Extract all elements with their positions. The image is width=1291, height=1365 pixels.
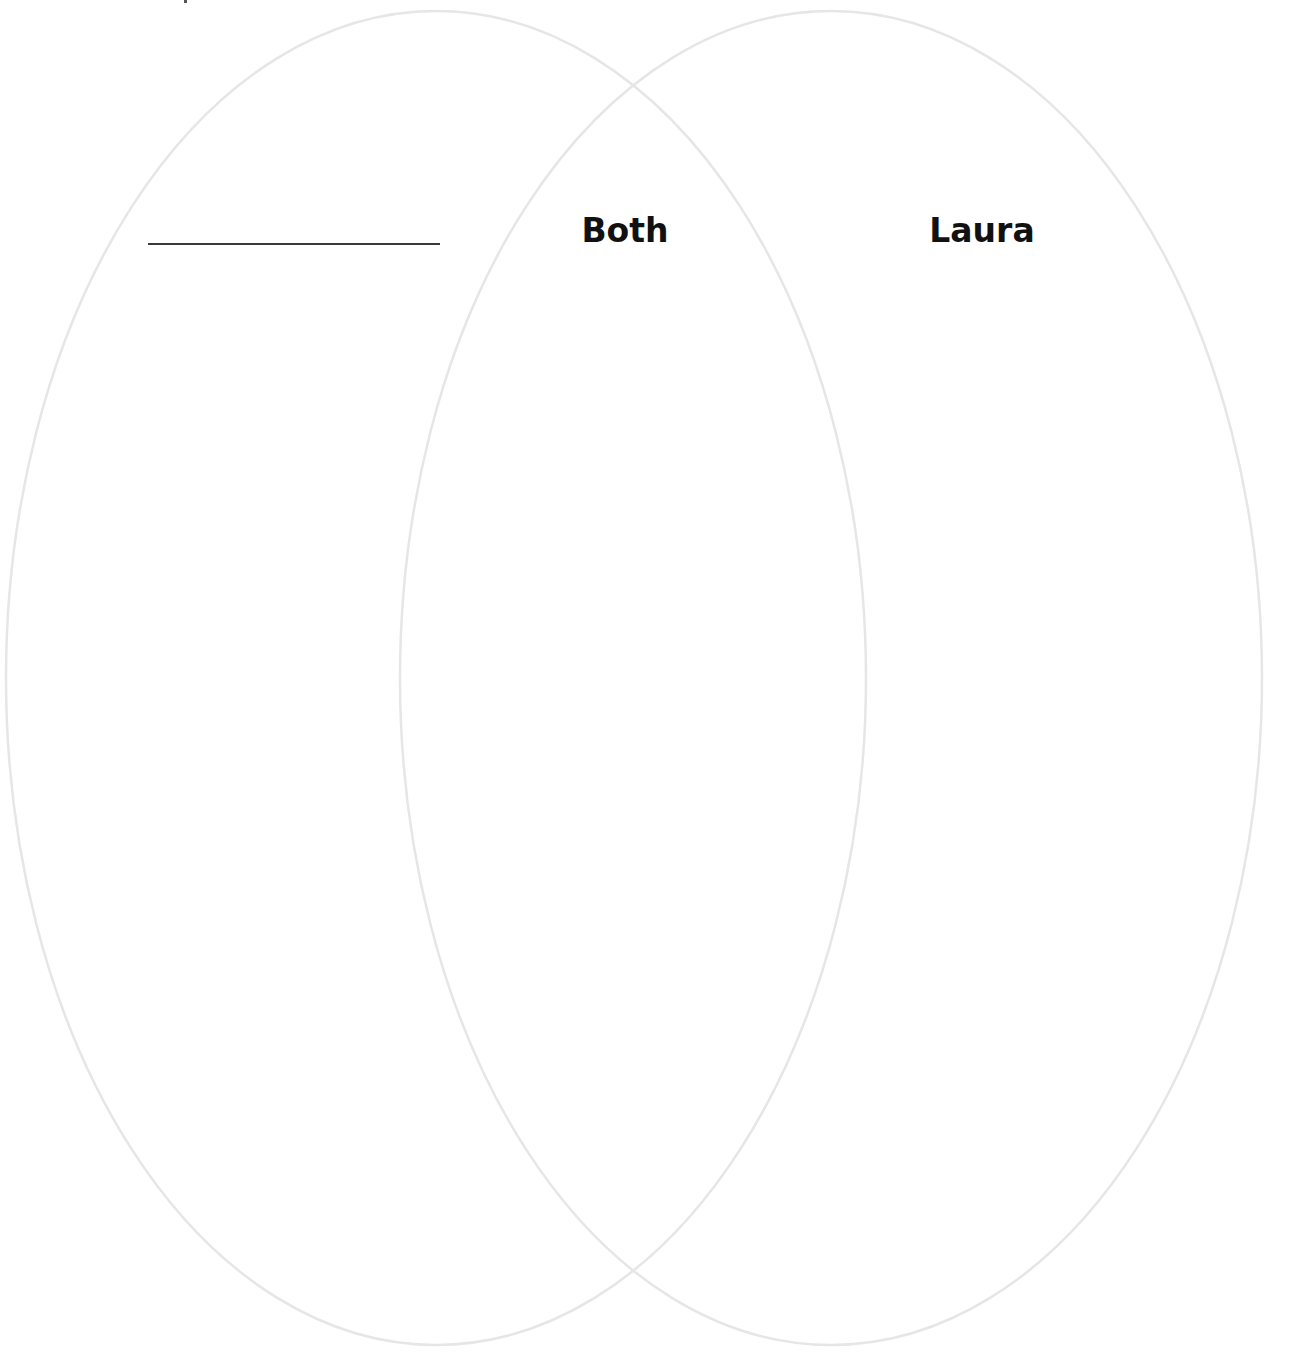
- right-set-region[interactable]: [880, 300, 1250, 1060]
- intersection-region[interactable]: [440, 300, 820, 1060]
- intersection-label: Both: [581, 214, 668, 247]
- right-set-label: Laura: [929, 214, 1034, 247]
- left-set-name-blank[interactable]: [148, 243, 440, 245]
- left-set-region[interactable]: [20, 300, 390, 1060]
